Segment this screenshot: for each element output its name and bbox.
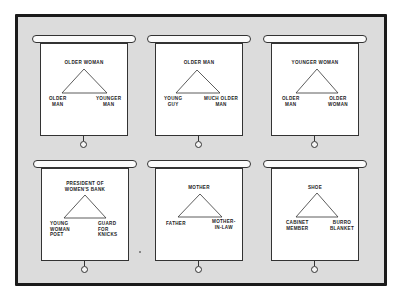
- projection-screen-2: OLDER MAN YOUNG GUY MUCH OLDER MAN: [147, 35, 251, 153]
- triangle-left-label: OLDER MAN: [49, 96, 67, 107]
- triangle-icon: [156, 169, 242, 260]
- triangle-top-label: YOUNGER WOMAN: [272, 60, 358, 66]
- triangle-right-label: MUCH OLDER MAN: [204, 96, 238, 107]
- triangle-top-label: MOTHER: [156, 185, 242, 191]
- speck: [139, 251, 141, 253]
- triangle-right-label: OLDER WOMAN: [328, 96, 348, 107]
- screen-surface: PRESIDENT OF WOMEN'S BANK YOUNG WOMAN PO…: [41, 168, 129, 261]
- screen-roller-bar: [33, 160, 137, 168]
- triangle-top-label: OLDER WOMAN: [41, 60, 127, 66]
- triangle-right-label: YOUNGER MAN: [96, 96, 121, 107]
- triangle-right-label: MOTHER- IN-LAW: [212, 219, 236, 230]
- screen-surface: OLDER MAN YOUNG GUY MUCH OLDER MAN: [155, 43, 243, 136]
- projection-screen-4: PRESIDENT OF WOMEN'S BANK YOUNG WOMAN PO…: [33, 160, 137, 278]
- pull-ring-icon: [195, 266, 202, 273]
- screen-surface: OLDER WOMAN OLDER MAN YOUNGER MAN: [40, 43, 128, 136]
- triangle-left-label: CABINET MEMBER: [286, 220, 309, 231]
- pull-ring-icon: [195, 141, 202, 148]
- screen-surface: YOUNGER WOMAN OLDER MAN OLDER WOMAN: [271, 43, 359, 136]
- triangle-right-label: GUARD FOR KNICKS: [98, 221, 117, 238]
- projection-screen-3: YOUNGER WOMAN OLDER MAN OLDER WOMAN: [263, 35, 367, 153]
- screen-roller-bar: [147, 160, 251, 168]
- triangle-top-label: OLDER MAN: [156, 60, 242, 66]
- triangle-icon: [156, 44, 242, 135]
- screen-surface: SHOE CABINET MEMBER BURRO BLANKET: [271, 168, 359, 261]
- triangle-left-label: YOUNG WOMAN POET: [50, 221, 70, 238]
- triangle-right-label: BURRO BLANKET: [330, 220, 354, 231]
- triangle-left-label: YOUNG GUY: [164, 96, 182, 107]
- screen-roller-bar: [32, 35, 136, 43]
- triangle-icon: [41, 44, 127, 135]
- pull-ring-icon: [80, 141, 87, 148]
- triangle-top-label: PRESIDENT OF WOMEN'S BANK: [42, 181, 128, 192]
- screen-roller-bar: [263, 35, 367, 43]
- pull-ring-icon: [81, 266, 88, 273]
- triangle-icon: [272, 44, 358, 135]
- triangle-icon: [272, 169, 358, 260]
- screen-surface: MOTHER FATHER MOTHER- IN-LAW: [155, 168, 243, 261]
- projection-screen-6: SHOE CABINET MEMBER BURRO BLANKET: [263, 160, 367, 278]
- pull-ring-icon: [311, 266, 318, 273]
- pull-ring-icon: [311, 141, 318, 148]
- screen-roller-bar: [147, 35, 251, 43]
- triangle-left-label: OLDER MAN: [282, 96, 300, 107]
- triangle-left-label: FATHER: [166, 221, 186, 227]
- screen-roller-bar: [263, 160, 367, 168]
- projection-screen-5: MOTHER FATHER MOTHER- IN-LAW: [147, 160, 251, 278]
- projection-screen-1: OLDER WOMAN OLDER MAN YOUNGER MAN: [32, 35, 136, 153]
- triangle-top-label: SHOE: [272, 185, 358, 191]
